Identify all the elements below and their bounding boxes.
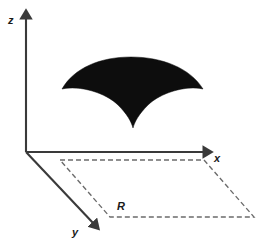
region-r-label: R [117,200,125,212]
axis-labels-group: z x y [7,14,221,238]
y-axis-label: y [71,226,79,238]
region-r-parallelogram [60,160,254,217]
z-axis-label: z [7,14,14,26]
surface-group [62,57,203,128]
coordinate-system-diagram: z x y R [0,0,263,244]
axes-group [26,17,205,224]
region-r-group: R [60,160,254,217]
saddle-surface-patch [62,57,203,128]
x-axis-label: x [213,152,221,164]
figure-canvas: z x y R [0,0,263,244]
